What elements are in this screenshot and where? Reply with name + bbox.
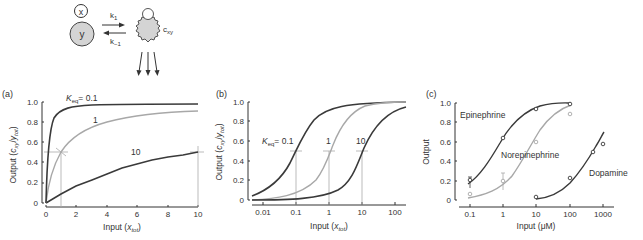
svg-text:1000: 1000 (594, 210, 612, 219)
svg-text:0.6: 0.6 (233, 137, 245, 146)
y-axis-label: Output (421, 139, 431, 165)
bound-ligand-circle (143, 9, 154, 20)
panel-a: (a) 1.0 0.8 0.6 0.4 0.2 0 0 2 4 6 8 10 (2, 89, 204, 233)
svg-text:1: 1 (501, 210, 506, 219)
label-keq-0.1: Keq= 0.1 (66, 93, 98, 104)
svg-text:0.4: 0.4 (27, 158, 39, 167)
svg-text:1.0: 1.0 (233, 98, 245, 107)
svg-text:0: 0 (34, 199, 39, 208)
curve-keq-10 (46, 152, 198, 203)
x-tick-labels: 0 2 4 6 8 10 (44, 210, 203, 219)
y-tick-labels: 1.0 0.8 0.6 0.4 0.2 0 (27, 98, 39, 208)
svg-text:0.8: 0.8 (440, 118, 452, 127)
k-reverse-label: k−1 (110, 37, 122, 47)
panel-a-label: (a) (2, 89, 13, 99)
svg-text:0.4: 0.4 (233, 157, 245, 166)
svg-text:0.2: 0.2 (440, 177, 452, 186)
svg-text:6: 6 (135, 210, 140, 219)
svg-text:1.0: 1.0 (27, 98, 39, 107)
svg-text:0: 0 (240, 196, 245, 205)
svg-text:0.2: 0.2 (233, 176, 245, 185)
svg-text:10: 10 (358, 208, 367, 217)
panel-c: (c) 1.0 0.8 0.6 0.4 0.2 0 0.1 1 10 100 1… (421, 89, 628, 231)
panel-b-label: (b) (216, 89, 227, 99)
figure: x y k1 k−1 cxy (a) 1.0 0.8 0.6 0.4 (0, 0, 643, 240)
ligand-x-label: x (79, 7, 84, 17)
y-tick-labels: 1.0 0.8 0.6 0.4 0.2 0 (233, 98, 245, 205)
svg-text:4: 4 (105, 210, 110, 219)
output-arrow-1 (139, 52, 142, 72)
svg-text:0.6: 0.6 (440, 138, 452, 147)
label-dopamine: Dopamine (589, 168, 628, 178)
svg-text:0.8: 0.8 (27, 118, 39, 127)
panel-b: (b) 1.0 0.8 0.6 0.4 0.2 0 0.01 0.1 1 10 … (214, 89, 406, 232)
label-keq-10: 10 (131, 147, 141, 157)
y-axis-label: Output (cxy/ytot) (214, 123, 225, 180)
x-axis-label: Input (xtot) (310, 221, 348, 232)
svg-text:0.2: 0.2 (27, 178, 39, 187)
label-keq-1: 1 (326, 136, 331, 146)
half-max-markers (290, 151, 368, 205)
svg-text:0.6: 0.6 (27, 138, 39, 147)
label-keq-10: 10 (356, 136, 366, 146)
svg-text:2: 2 (74, 210, 79, 219)
svg-text:10: 10 (194, 210, 203, 219)
forward-arrowhead-icon (119, 23, 125, 28)
output-arrow-3 (154, 52, 157, 72)
x-axis-label: Input (xtot) (103, 222, 141, 233)
label-norepinephrine: Norepinephrine (501, 150, 559, 160)
k-forward-label: k1 (110, 11, 118, 21)
svg-text:0.8: 0.8 (233, 117, 245, 126)
svg-text:1.0: 1.0 (440, 99, 452, 108)
label-epinephrine: Epinephrine (460, 110, 506, 120)
svg-text:0.4: 0.4 (440, 157, 452, 166)
svg-text:10: 10 (532, 210, 541, 219)
y-axis-label: Output (cxy/ytot) (8, 126, 19, 183)
x-tick-labels: 0.1 1 10 100 1000 (464, 210, 612, 219)
reverse-arrowhead-icon (103, 31, 109, 36)
output-arrowhead-icon (137, 70, 142, 76)
y-tick-labels: 1.0 0.8 0.6 0.4 0.2 0 (440, 99, 452, 205)
svg-text:0: 0 (44, 210, 49, 219)
svg-text:100: 100 (563, 210, 577, 219)
svg-text:1: 1 (327, 208, 332, 217)
panel-c-label: (c) (426, 89, 437, 99)
receptor-y-label: y (80, 29, 85, 40)
svg-text:8: 8 (166, 210, 171, 219)
curve-dopamine (536, 132, 604, 199)
x-axis-label: Input (μM) (517, 221, 556, 231)
x-tick-labels: 0.01 0.1 1 10 100 (255, 208, 402, 217)
output-arrowhead-icon (155, 70, 160, 76)
output-arrowhead-icon (146, 70, 151, 76)
svg-text:0: 0 (447, 196, 452, 205)
svg-text:0.1: 0.1 (290, 208, 302, 217)
svg-text:0.01: 0.01 (255, 208, 271, 217)
label-keq-0.1: Keq= 0.1 (262, 136, 294, 147)
complex-label: cxy (163, 25, 173, 35)
label-keq-1: 1 (93, 115, 98, 125)
svg-text:0.1: 0.1 (464, 210, 476, 219)
binding-diagram: x y k1 k−1 cxy (70, 5, 173, 77)
svg-text:100: 100 (388, 208, 402, 217)
